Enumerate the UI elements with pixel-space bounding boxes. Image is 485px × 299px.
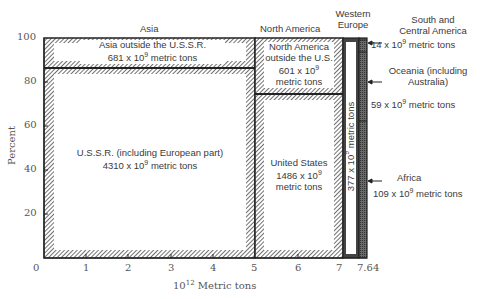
x-tick-7: 7 [336, 262, 342, 273]
x-tick-4: 4 [210, 262, 216, 273]
na-outside-us-label: North America outside the U.S. 601 x 109… [262, 42, 336, 88]
other-regions-column [359, 38, 367, 258]
x-tick-2: 2 [125, 262, 131, 273]
x-tick-6: 6 [295, 262, 301, 273]
x-tick-7-64: 7.64 [357, 262, 379, 273]
south-central-america-value: 14 x 109 metric tons [371, 38, 455, 51]
south-central-america-label: South and Central America [383, 15, 483, 37]
united-states-label: United States 1486 x 109 metric tons [262, 158, 336, 193]
x-tick-1: 1 [83, 262, 89, 273]
x-tick-5: 5 [251, 262, 257, 273]
callout-arrows [368, 41, 382, 183]
x-axis-title: 1012 Metric tons [173, 279, 256, 291]
africa-value: 109 x 109 metric tons [373, 187, 462, 200]
y-tick-60: 60 [24, 119, 37, 130]
y-tick-40: 40 [24, 163, 37, 174]
africa-label: Africa [397, 173, 421, 184]
western-europe-label: 377 x 109 metric tons [343, 102, 356, 192]
oceania-label: Oceania (including Australia) [378, 66, 478, 88]
asia-header: Asia [140, 24, 158, 35]
asia-outside-ussr-label: Asia outside the U.S.S.R. 681 x 109 metr… [80, 40, 225, 64]
ussr-label: U.S.S.R. (including European part) 4310 … [60, 148, 240, 172]
oceania-value: 59 x 109 metric tons [371, 98, 455, 111]
y-tick-20: 20 [24, 207, 37, 218]
x-tick-0: 0 [33, 262, 39, 273]
north-america-header: North America [260, 24, 320, 35]
y-tick-100: 100 [17, 31, 36, 42]
x-tick-3: 3 [168, 262, 174, 273]
western-europe-header: WesternEurope [333, 9, 373, 31]
y-tick-80: 80 [24, 75, 37, 86]
y-axis-title: Percent [6, 126, 17, 165]
